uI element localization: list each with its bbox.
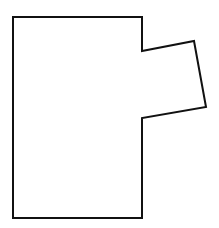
- diagram-svg: [0, 0, 219, 228]
- polygon-shape: [13, 17, 206, 218]
- diagram-canvas: [0, 0, 219, 228]
